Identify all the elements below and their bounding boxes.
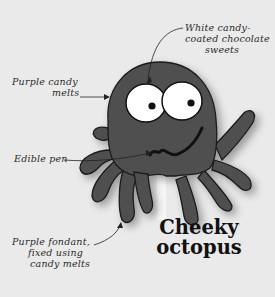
left-pupil [148,102,155,109]
octopus-body [80,62,254,225]
arrow-tentacles [94,225,120,245]
lollipop-stick [157,175,166,220]
title-line-1: Cheeky [147,218,251,238]
annotation-tentacles: Purple fondant, fixed using candy melts [12,236,90,269]
annotation-eyes: White candy- coated chocolate sweets [185,22,270,55]
annotation-mouth: Edible pen [14,153,68,164]
right-eye [162,82,202,120]
title: Cheeky octopus [147,218,251,258]
illustration-canvas: White candy- coated chocolate sweets Pur… [0,0,275,297]
annotation-body: Purple candy melts [12,76,79,98]
right-pupil [187,99,194,106]
left-eye [126,84,166,122]
title-line-2: octopus [147,238,251,258]
